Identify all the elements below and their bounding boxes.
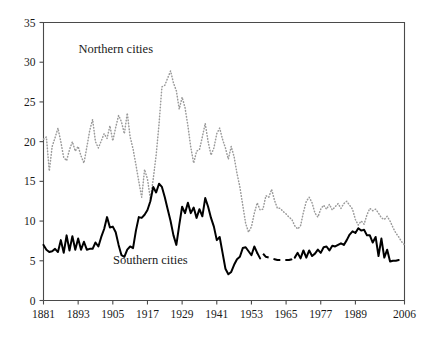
y-tick-label: 35 (24, 17, 36, 29)
series-line-1-interpolated-gap (257, 253, 295, 260)
series-line-1-segment-b (295, 228, 399, 261)
y-tick-label: 15 (24, 175, 36, 187)
y-tick-label: 25 (24, 96, 36, 108)
y-tick-label: 30 (24, 56, 36, 68)
x-tick-label: 1881 (32, 308, 55, 320)
annotation-label-1: Southern cities (113, 253, 188, 267)
x-tick-label: 1977 (309, 308, 332, 320)
x-tick-label: 1905 (101, 308, 124, 320)
x-tick-label: 1893 (67, 308, 90, 320)
x-tick-label: 1989 (344, 308, 367, 320)
y-tick-label: 5 (30, 255, 36, 267)
annotation-label-0: Northern cities (78, 42, 153, 56)
y-axis-ticks: 05101520253035 (24, 17, 44, 307)
series-line-0 (44, 71, 405, 245)
y-tick-label: 10 (24, 215, 36, 227)
x-tick-label: 1953 (240, 308, 263, 320)
x-tick-label: 1965 (275, 308, 298, 320)
x-tick-label: 1941 (205, 308, 228, 320)
chart-container: 05101520253035 1881189319051917192919411… (0, 0, 425, 340)
series-annotations: Northern citiesSouthern cities (78, 42, 187, 267)
y-tick-label: 20 (24, 136, 36, 148)
line-chart: 05101520253035 1881189319051917192919411… (0, 0, 425, 340)
series-lines (44, 71, 405, 274)
y-tick-label: 0 (30, 295, 36, 307)
x-axis-ticks: 1881189319051917192919411953196519771989… (32, 301, 416, 320)
x-tick-label: 2006 (393, 308, 416, 320)
x-tick-label: 1929 (171, 308, 194, 320)
x-tick-label: 1917 (136, 308, 159, 320)
